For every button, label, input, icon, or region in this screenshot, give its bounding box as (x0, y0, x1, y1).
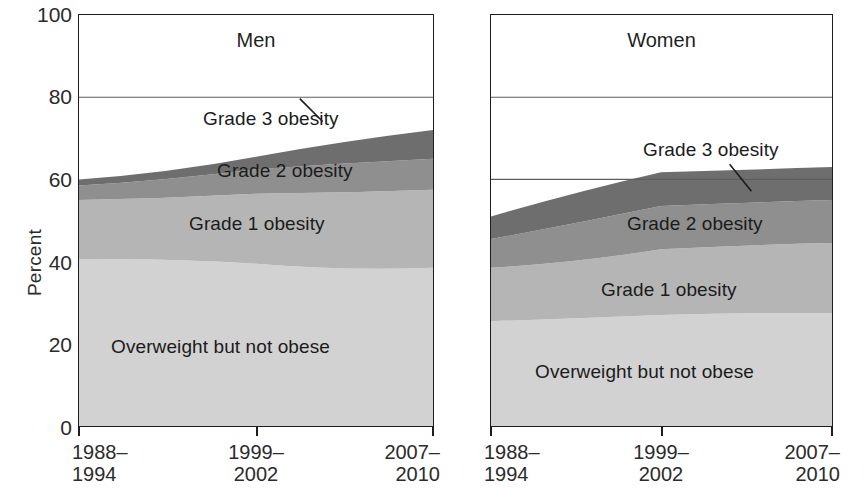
men-xtick-mark-end (432, 427, 434, 436)
obesity-prevalence-stacked-area-figure: 100 80 60 40 20 0 Percent Men Grade 3 ob… (0, 0, 866, 501)
women-xtick-2-line2: 2002 (621, 463, 701, 485)
women-xtick-mark-end (831, 427, 833, 436)
men-xtick-label-1: 1988– 1994 (72, 441, 128, 486)
men-xtick-mark-start (78, 427, 80, 436)
women-xtick-1-line1: 1988– (484, 441, 540, 463)
women-xtick-mark-start (490, 427, 492, 436)
men-grade3-leader-line (300, 99, 323, 122)
panel-women: Women Grade 3 obesity Grade 2 obesity Gr… (490, 14, 833, 427)
women-xtick-1-line2: 1994 (484, 463, 540, 485)
men-xtick-2-line1: 1999– (216, 441, 296, 463)
women-area-plot (491, 15, 832, 426)
men-area-plot (79, 15, 433, 426)
men-area-grade1 (79, 190, 433, 269)
men-xtick-3-line2: 2010 (362, 463, 440, 485)
y-axis-title: Percent (24, 229, 46, 296)
women-xtick-label-2: 1999– 2002 (621, 441, 701, 486)
y-tick-20: 20 (30, 334, 72, 355)
women-xtick-3-line1: 2007– (762, 441, 840, 463)
y-tick-80: 80 (30, 86, 72, 107)
men-xtick-label-3: 2007– 2010 (362, 441, 440, 486)
men-xtick-mark-mid (256, 427, 258, 436)
women-xtick-mark-mid (661, 427, 663, 436)
men-xtick-label-2: 1999– 2002 (216, 441, 296, 486)
y-tick-0: 0 (30, 417, 72, 438)
panel-men: Men Grade 3 obesity Grade 2 obesity Grad… (78, 14, 434, 427)
men-xtick-1-line1: 1988– (72, 441, 128, 463)
women-xtick-label-3: 2007– 2010 (762, 441, 840, 486)
y-tick-100: 100 (30, 4, 72, 25)
women-xtick-2-line1: 1999– (621, 441, 701, 463)
women-xtick-3-line2: 2010 (762, 463, 840, 485)
men-xtick-2-line2: 2002 (216, 463, 296, 485)
men-xtick-1-line2: 1994 (72, 463, 128, 485)
women-area-overweight (491, 313, 832, 426)
women-xtick-label-1: 1988– 1994 (484, 441, 540, 486)
men-area-overweight (79, 259, 433, 426)
men-xtick-3-line1: 2007– (362, 441, 440, 463)
y-tick-60: 60 (30, 169, 72, 190)
